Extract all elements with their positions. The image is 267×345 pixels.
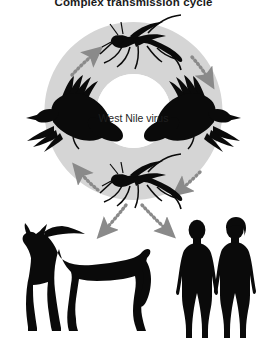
arrow-mosquito-to-humans xyxy=(142,205,168,231)
west-nile-transmission-cycle-figure: Complex transmission cycle xyxy=(0,0,267,345)
center-label: West Nile virus xyxy=(0,112,267,124)
spillover-arrows xyxy=(104,205,168,231)
human-figure-male xyxy=(176,220,218,338)
human-figure-female xyxy=(214,217,256,338)
horse-icon xyxy=(23,223,151,331)
diagram-canvas xyxy=(0,0,267,345)
arrow-mosquito-to-horse xyxy=(104,205,126,231)
human-icon xyxy=(176,217,256,338)
